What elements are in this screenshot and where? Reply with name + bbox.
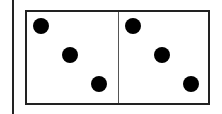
margin-line — [12, 0, 14, 114]
pip — [91, 76, 107, 92]
pip — [125, 18, 141, 34]
pip — [154, 47, 170, 63]
domino-right-half — [119, 12, 210, 103]
domino-tile — [25, 10, 210, 105]
domino-left-half — [27, 12, 118, 103]
pip — [183, 76, 199, 92]
pip — [33, 18, 49, 34]
pip — [62, 47, 78, 63]
